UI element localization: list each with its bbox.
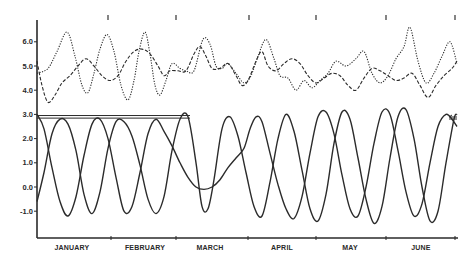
y-axis-ticks: 6.05.04.03.02.01.00.0-1.0 (20, 37, 37, 215)
end-arrow-icon (449, 115, 457, 119)
y-tick-label: -1.0 (20, 207, 33, 216)
series-lower-solid-b (37, 109, 457, 219)
x-tick-label: JANUARY (55, 244, 90, 251)
x-tick-label: MARCH (196, 244, 223, 251)
series-lower-solid-a (37, 108, 457, 223)
y-tick-label: 4.0 (23, 86, 33, 95)
y-tick-label: 1.0 (23, 158, 33, 167)
series-upper-dashed (37, 47, 457, 103)
y-tick-label: 5.0 (23, 62, 33, 71)
x-tick-label: MAY (342, 244, 358, 251)
chart-canvas: 6.05.04.03.02.01.00.0-1.0 JANUARYFEBRUAR… (0, 0, 476, 267)
x-tick-label: APRIL (271, 244, 294, 251)
y-tick-label: 0.0 (23, 183, 33, 192)
y-tick-label: 6.0 (23, 37, 33, 46)
x-tick-label: JUNE (411, 244, 431, 251)
series-upper-dotted (37, 27, 457, 100)
y-tick-label: 2.0 (23, 134, 33, 143)
x-tick-label: FEBRUARY (125, 244, 165, 251)
y-tick-label: 3.0 (23, 110, 33, 119)
series-layer (37, 27, 457, 223)
top-marker-ticks (108, 15, 455, 20)
